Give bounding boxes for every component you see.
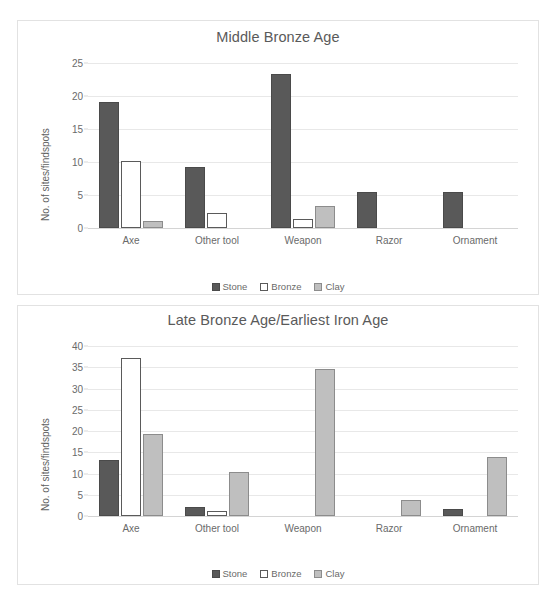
x-axis-tick-label: Axe: [88, 523, 174, 534]
y-axis-tick-label: 10: [72, 157, 83, 168]
bar-slot: [121, 63, 141, 228]
x-axis-tick-label: Weapon: [260, 523, 346, 534]
bar-group: Ornament: [432, 346, 518, 516]
bar-stone-other-tool[interactable]: [185, 167, 205, 228]
bar-clay-ornament[interactable]: [487, 457, 507, 517]
y-axis-tick-label: 25: [72, 404, 83, 415]
y-axis-tick-label: 30: [72, 383, 83, 394]
bar-slot: [487, 346, 507, 516]
bar-bronze-other-tool[interactable]: [207, 213, 227, 228]
bar-slot: [271, 346, 291, 516]
x-axis-tick-label: Other tool: [174, 235, 260, 246]
bar-slot: [207, 63, 227, 228]
bar-group: Other tool: [174, 346, 260, 516]
bar-clay-axe[interactable]: [143, 434, 163, 516]
x-axis-tick-label: Ornament: [432, 523, 518, 534]
gridline: [88, 516, 518, 517]
legend-item-stone[interactable]: Stone: [212, 568, 248, 579]
bar-clay-weapon[interactable]: [315, 206, 335, 228]
legend-label: Bronze: [271, 281, 301, 292]
bar-slot: [293, 63, 313, 228]
legend-item-clay[interactable]: Clay: [314, 568, 344, 579]
bar-stone-ornament[interactable]: [443, 509, 463, 516]
legend-label: Stone: [223, 281, 248, 292]
bars: [346, 63, 432, 228]
bar-stone-other-tool[interactable]: [185, 507, 205, 516]
bar-bronze-weapon[interactable]: [293, 219, 313, 228]
bar-slot: [293, 346, 313, 516]
bar-slot: [185, 346, 205, 516]
y-axis-tick-label: 5: [77, 190, 83, 201]
chart-legend: StoneBronzeClay: [18, 568, 538, 579]
bar-slot: [443, 346, 463, 516]
y-axis-tick-label: 0: [77, 223, 83, 234]
bar-clay-axe[interactable]: [143, 221, 163, 228]
bar-stone-axe[interactable]: [99, 460, 119, 516]
legend-label: Clay: [325, 281, 344, 292]
bar-group: Ornament: [432, 63, 518, 228]
legend-item-clay[interactable]: Clay: [314, 281, 344, 292]
bar-group: Axe: [88, 63, 174, 228]
bar-bronze-axe[interactable]: [121, 358, 141, 516]
y-axis-tick-label: 25: [72, 58, 83, 69]
legend-item-bronze[interactable]: Bronze: [260, 281, 301, 292]
bar-stone-weapon[interactable]: [271, 74, 291, 228]
y-axis-tick-label: 0: [77, 511, 83, 522]
bar-slot: [121, 346, 141, 516]
plot-area: 0510152025 AxeOther toolWeaponRazorOrnam…: [88, 63, 518, 228]
bar-slot: [443, 63, 463, 228]
chart-title: Late Bronze Age/Earliest Iron Age: [18, 312, 538, 328]
bar-clay-other-tool[interactable]: [229, 472, 249, 516]
bar-slot: [465, 346, 485, 516]
bar-slot: [401, 346, 421, 516]
bar-stone-razor[interactable]: [357, 192, 377, 228]
y-axis-tick-label: 20: [72, 426, 83, 437]
y-axis-tick-label: 10: [72, 468, 83, 479]
legend-item-bronze[interactable]: Bronze: [260, 568, 301, 579]
bar-slot: [143, 63, 163, 228]
bar-stone-ornament[interactable]: [443, 192, 463, 228]
legend-label: Stone: [223, 568, 248, 579]
bar-group: Razor: [346, 346, 432, 516]
y-axis-tick-label: 15: [72, 124, 83, 135]
bars: [260, 63, 346, 228]
x-axis-tick-label: Other tool: [174, 523, 260, 534]
legend-swatch-clay-icon: [314, 283, 322, 291]
legend-label: Clay: [325, 568, 344, 579]
bar-group: Razor: [346, 63, 432, 228]
legend-swatch-clay-icon: [314, 570, 322, 578]
bars: [260, 346, 346, 516]
bar-slot: [207, 346, 227, 516]
bars: [432, 63, 518, 228]
x-axis-tick-label: Axe: [88, 235, 174, 246]
legend-item-stone[interactable]: Stone: [212, 281, 248, 292]
x-axis-tick-label: Ornament: [432, 235, 518, 246]
bar-slot: [185, 63, 205, 228]
bar-stone-axe[interactable]: [99, 102, 119, 228]
bar-slot: [271, 63, 291, 228]
bar-slot: [401, 63, 421, 228]
bar-slot: [487, 63, 507, 228]
chart-legend: StoneBronzeClay: [18, 281, 538, 292]
plot-area: 0510152025303540 AxeOther toolWeaponRazo…: [88, 346, 518, 516]
bars: [88, 63, 174, 228]
x-axis-tick-label: Razor: [346, 523, 432, 534]
bar-slot: [99, 346, 119, 516]
bar-group: Axe: [88, 346, 174, 516]
bar-clay-razor[interactable]: [401, 500, 421, 516]
bar-clay-weapon[interactable]: [315, 369, 335, 516]
bar-bronze-axe[interactable]: [121, 161, 141, 228]
y-axis-title: No. of sites/findspots: [40, 418, 51, 511]
bars: [174, 63, 260, 228]
bars: [432, 346, 518, 516]
bar-bronze-other-tool[interactable]: [207, 511, 227, 516]
figure-container: Middle Bronze Age No. of sites/findspots…: [0, 0, 556, 598]
legend-swatch-stone-icon: [212, 570, 220, 578]
chart-panel-late-bronze-age: Late Bronze Age/Earliest Iron Age No. of…: [17, 305, 539, 585]
bar-slot: [379, 63, 399, 228]
legend-swatch-bronze-icon: [260, 570, 268, 578]
bars: [346, 346, 432, 516]
bars: [88, 346, 174, 516]
x-axis-tick-label: Razor: [346, 235, 432, 246]
bar-slot: [143, 346, 163, 516]
